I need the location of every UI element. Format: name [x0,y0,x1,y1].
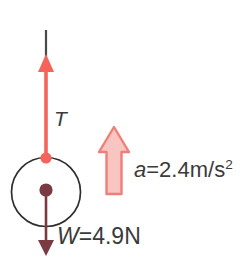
weight-symbol: W [57,223,79,249]
tension-label: T [54,108,67,129]
acceleration-label: a=2.4m/s2 [134,159,233,181]
string-attachment-dot [40,152,51,163]
weight-force-arrow-down [38,190,54,256]
force-diagram: T a=2.4m/s2 W=4.9N [0,0,250,265]
weight-equals: = [79,223,92,249]
weight-label: W=4.9N [57,225,141,248]
center-of-mass-dot [39,183,52,196]
weight-value: 4.9N [92,223,141,249]
acceleration-value: 2.4m/s [159,157,225,182]
acceleration-exponent: 2 [225,157,233,172]
acceleration-block-arrow-up [99,127,129,194]
acceleration-symbol: a [134,157,146,182]
tension-force-arrow-up [38,54,54,160]
acceleration-equals: = [146,157,159,182]
